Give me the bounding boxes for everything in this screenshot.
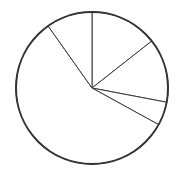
pie-chart: [0, 0, 180, 172]
